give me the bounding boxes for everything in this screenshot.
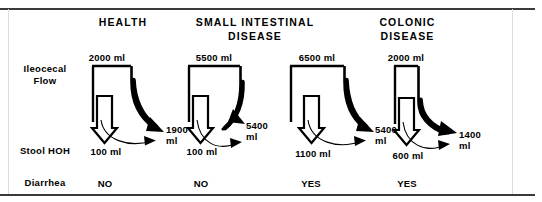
flow-group-colonic <box>290 66 374 146</box>
absorption-arrow-shaft-3 <box>347 80 367 127</box>
diarrhea-value-colonic: YES <box>288 178 334 189</box>
stool-arrow-3 <box>299 96 324 143</box>
absorption-arrowhead-4 <box>438 121 457 136</box>
stool-hoh-value-colonic: 1100 ml <box>282 148 344 159</box>
return-arrowhead-1 <box>144 136 156 146</box>
stool-hoh-value-colonic-second: 600 ml <box>379 150 437 161</box>
return-arrowhead-4 <box>438 140 450 150</box>
stool-hoh-value-small-intestinal: 100 ml <box>174 146 230 157</box>
stool-hoh-value-health: 100 ml <box>78 146 134 157</box>
return-arrowhead-3 <box>354 136 366 146</box>
ileocecal-flow-value-health: 2000 ml <box>69 52 145 63</box>
figure-panel: HEALTH SMALL INTESTINAL DISEASE COLONIC … <box>0 0 542 202</box>
absorbed-value-colonic-second: 1400 ml <box>459 129 493 151</box>
absorbed-value-health: 1900 ml <box>166 124 200 146</box>
ileocecal-flow-value-small-intestinal: 5500 ml <box>176 52 252 63</box>
ileocecal-flow-value-colonic-second: 2000 ml <box>368 52 444 63</box>
diarrhea-value-small-intestinal: NO <box>178 178 224 189</box>
return-arrowhead-2 <box>230 138 242 148</box>
absorbed-value-small-intestinal: 5400 ml <box>246 120 280 142</box>
flow-diagram-graphics <box>0 0 542 202</box>
ileocecal-flow-value-colonic: 6500 ml <box>279 52 355 63</box>
stool-arrow-1 <box>92 96 117 143</box>
absorbed-value-colonic: 5400 ml <box>375 124 409 146</box>
diarrhea-value-health: NO <box>82 178 128 189</box>
flow-group-health <box>92 66 164 146</box>
diarrhea-value-colonic-second: YES <box>384 178 430 189</box>
